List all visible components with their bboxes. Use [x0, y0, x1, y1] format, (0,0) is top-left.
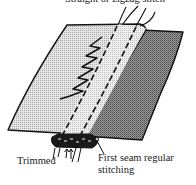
- sewing-diagram: Straight or zigzag stitch Trimmed First …: [0, 0, 196, 185]
- thread-end-1: [118, 7, 126, 25]
- trim-arrow-2: [69, 149, 73, 159]
- trim-line-3: [72, 148, 76, 162]
- trim-arrow-1: [65, 149, 70, 158]
- trimmed-label: Trimmed: [17, 155, 56, 167]
- trim-line-2: [58, 148, 60, 157]
- trim-line-4: [78, 148, 81, 162]
- thread-end-2: [122, 6, 138, 25]
- stitch-dot: [96, 138, 99, 141]
- trimmed-edge-bundle: [52, 134, 99, 148]
- first-seam-label-line1: First seam regular: [98, 152, 174, 164]
- thread-end-3: [136, 8, 146, 26]
- first-seam-label-line2: stitching: [98, 164, 174, 176]
- first-seam-label: First seam regular stitching: [98, 152, 174, 176]
- top-stitch-label: Straight or zigzag stitch: [65, 0, 165, 5]
